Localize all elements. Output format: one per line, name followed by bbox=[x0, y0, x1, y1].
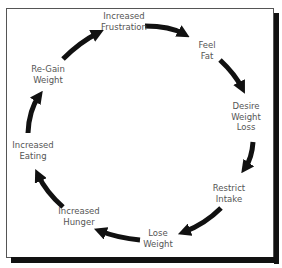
arrow-hunger-to-eating bbox=[38, 175, 63, 207]
node-line: Weight bbox=[143, 238, 173, 249]
arrow-lose-to-hunger bbox=[100, 231, 140, 240]
node-line: Eating bbox=[12, 150, 53, 161]
arrow-eating-to-regain bbox=[28, 96, 39, 133]
arrow-frustration-to-feel-fat bbox=[145, 26, 184, 34]
arrow-regain-to-frustration bbox=[63, 33, 98, 59]
node-line: Intake bbox=[213, 193, 245, 204]
node-line: Increased bbox=[101, 11, 147, 22]
cycle-arrows bbox=[0, 0, 282, 268]
node-increased-frustration: Increased Frustration bbox=[101, 11, 147, 32]
node-line: Re-Gain bbox=[31, 64, 65, 75]
arrow-desire-to-restrict bbox=[245, 142, 253, 168]
arrow-feel-fat-to-desire bbox=[220, 60, 242, 88]
node-feel-fat: Feel Fat bbox=[198, 40, 215, 61]
node-line: Feel bbox=[198, 40, 215, 51]
node-line: Hunger bbox=[58, 216, 99, 227]
node-line: Restrict bbox=[213, 183, 245, 194]
node-increased-hunger: Increased Hunger bbox=[58, 206, 99, 227]
node-desire-weight-loss: Desire Weight Loss bbox=[231, 101, 261, 133]
node-line: Weight bbox=[231, 112, 261, 123]
node-line: Lose bbox=[143, 228, 173, 239]
node-line: Weight bbox=[31, 74, 65, 85]
node-line: Fat bbox=[198, 50, 215, 61]
node-line: Increased bbox=[12, 140, 53, 151]
arrow-restrict-to-lose bbox=[184, 208, 221, 232]
node-line: Increased bbox=[58, 206, 99, 217]
node-line: Desire bbox=[231, 101, 261, 112]
node-increased-eating: Increased Eating bbox=[12, 140, 53, 161]
node-line: Loss bbox=[231, 122, 261, 133]
node-regain-weight: Re-Gain Weight bbox=[31, 64, 65, 85]
node-line: Frustration bbox=[101, 21, 147, 32]
node-lose-weight: Lose Weight bbox=[143, 228, 173, 249]
node-restrict-intake: Restrict Intake bbox=[213, 183, 245, 204]
